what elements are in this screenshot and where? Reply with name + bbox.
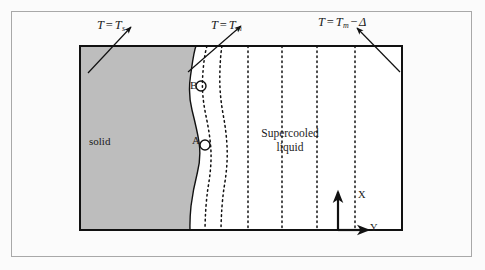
label-tm-subscript: m <box>236 24 242 33</box>
label-ts-subscript: s <box>122 24 125 33</box>
label-axis-y: Y <box>370 222 378 233</box>
label-temperature-solid: T=Ts <box>97 18 125 33</box>
solidification-diagram <box>0 0 485 270</box>
label-tm-rhs: T <box>229 18 236 32</box>
label-tmd-rhs: T <box>336 15 343 29</box>
label-point-a: A <box>192 134 200 146</box>
label-temperature-melting: T=Tm <box>211 18 242 33</box>
label-region-supercooled-liquid: Supercooled liquid <box>246 126 334 154</box>
label-tmd-operator: = <box>325 15 335 29</box>
label-region-liquid-line2: liquid <box>246 140 334 154</box>
label-ts-operator: = <box>104 18 114 32</box>
label-axis-x: X <box>358 189 366 200</box>
label-tmd-subscript: m <box>343 21 349 30</box>
label-tmd-delta: Δ <box>359 15 367 29</box>
label-region-liquid-line1: Supercooled <box>246 126 334 140</box>
label-tmd-minus: − <box>349 15 359 29</box>
label-ts-rhs: T <box>115 18 122 32</box>
label-tm-operator: = <box>218 18 228 32</box>
label-region-solid: solid <box>89 135 110 147</box>
figure-container: T=Ts T=Tm T=Tm−Δ solid Supercooled liqui… <box>0 0 485 270</box>
label-point-b: B <box>190 79 197 91</box>
label-temperature-supercooled: T=Tm−Δ <box>318 15 367 30</box>
